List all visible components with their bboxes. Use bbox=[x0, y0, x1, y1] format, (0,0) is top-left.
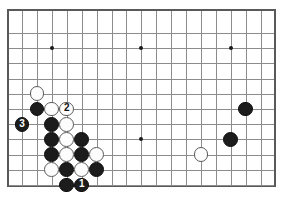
board-border bbox=[7, 9, 276, 187]
go-board-diagram: 231 bbox=[0, 0, 284, 197]
